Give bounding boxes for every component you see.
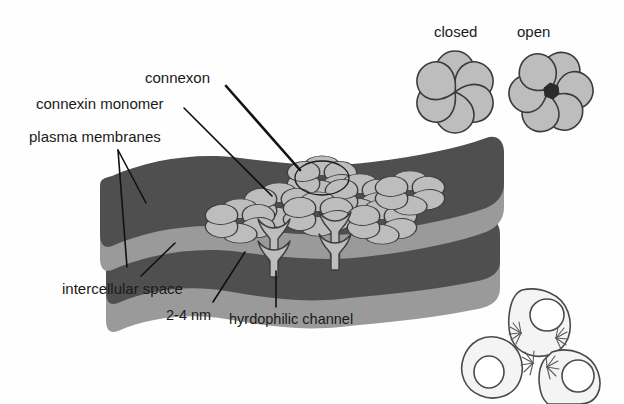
label-connexon: connexon <box>145 70 210 85</box>
label-connexin-monomer: connexin monomer <box>36 96 164 111</box>
cell-nucleus <box>562 360 594 392</box>
gap-junction-figure: connexon connexin monomer plasma membran… <box>0 0 624 404</box>
label-hydrophilic-channel: hyrdophilic channel <box>229 312 353 327</box>
diagram-canvas <box>0 0 624 404</box>
label-plasma-membranes: plasma membranes <box>29 129 161 144</box>
label-gap-width: 2-4 nm <box>166 308 211 323</box>
connexon-closed <box>410 51 500 133</box>
label-closed: closed <box>434 24 477 39</box>
cell-nucleus <box>530 299 564 331</box>
connexon-open <box>492 36 609 149</box>
label-open: open <box>517 24 550 39</box>
connexon-state-inset <box>410 36 610 149</box>
cell-nucleus <box>474 356 504 388</box>
label-intercellular-space: intercellular space <box>62 281 183 296</box>
